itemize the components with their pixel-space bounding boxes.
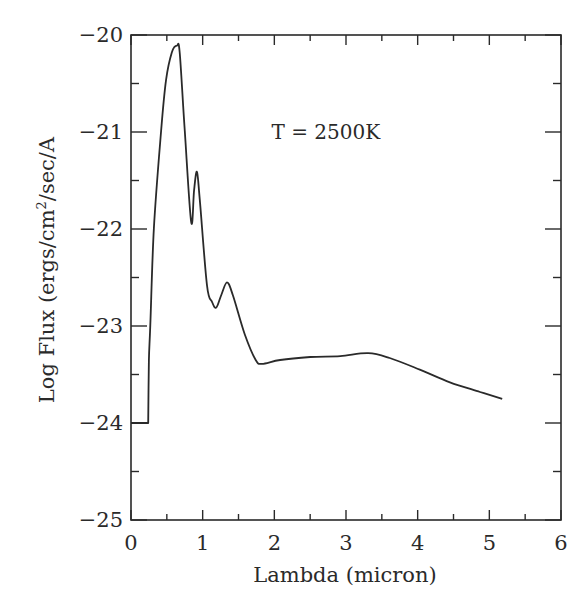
y-tick-label: −22 <box>79 217 123 241</box>
x-axis-label: Lambda (micron) <box>253 563 436 587</box>
y-tick-label: −24 <box>79 411 123 435</box>
x-tick-label: 6 <box>554 531 567 555</box>
axis-ticks <box>131 35 561 520</box>
y-tick-label: −20 <box>79 23 123 47</box>
x-tick-label: 4 <box>411 531 424 555</box>
y-tick-label: −21 <box>79 120 123 144</box>
flux-spectrum-chart: 0123456 −25−24−23−22−21−20 T = 2500K Lam… <box>0 0 585 602</box>
spectrum-line <box>131 44 502 423</box>
y-axis-label-sup: 2 <box>34 201 49 209</box>
y-tick-labels: −25−24−23−22−21−20 <box>79 23 123 532</box>
y-axis-label-post: /sec/A <box>35 136 59 201</box>
temperature-annotation: T = 2500K <box>271 120 381 144</box>
x-tick-label: 1 <box>196 531 209 555</box>
plot-frame <box>131 35 561 520</box>
x-tick-label: 3 <box>339 531 352 555</box>
y-tick-label: −25 <box>79 508 123 532</box>
x-tick-label: 5 <box>483 531 496 555</box>
x-tick-labels: 0123456 <box>124 531 567 555</box>
x-tick-label: 0 <box>124 531 137 555</box>
plot-border <box>131 35 561 520</box>
y-axis-label-pre: Log Flux (ergs/cm <box>35 209 59 403</box>
y-tick-label: −23 <box>79 314 123 338</box>
y-axis-label: Log Flux (ergs/cm2/sec/A <box>34 136 59 403</box>
x-tick-label: 2 <box>268 531 281 555</box>
